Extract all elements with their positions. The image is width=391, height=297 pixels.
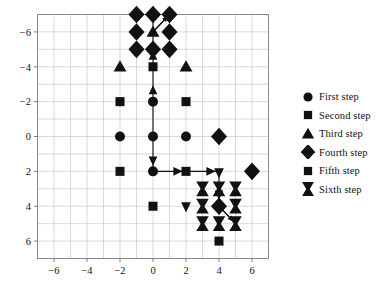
triangle-marker-icon [300,126,316,142]
data-point-circle [148,166,158,176]
path-arrowhead-down [181,202,191,212]
data-point-triangle [180,60,193,71]
path-arrowhead-right [173,167,182,176]
data-point-diamond [145,6,161,24]
path-arrowhead-down [214,168,224,178]
scatter-figure: −6−4−20246−6−4−20246 First stepSecond st… [0,0,391,297]
data-point-square [181,97,190,106]
data-point-diamond [211,128,227,146]
x-tick-label: −6 [48,265,59,276]
x-tick-label: 4 [216,265,222,276]
circle-marker-icon [300,89,316,105]
y-tick-label: −4 [20,62,32,73]
data-point-diamond [161,23,177,41]
data-point-diamond [161,41,177,59]
legend-item-second-step[interactable]: Second step [300,107,388,124]
data-point-square [148,62,157,71]
legend-label: Third step [316,128,363,139]
legend-item-third-step[interactable]: Third step [300,125,388,142]
data-point-triangle [114,60,127,71]
data-point-diamond [128,6,144,24]
chart-legend: First stepSecond stepThird stepFourth st… [300,88,388,199]
path-arrowhead-down [149,156,158,165]
diamond-marker-icon [300,144,316,160]
y-tick-label: 0 [26,131,31,142]
data-point-square [148,202,157,211]
data-point-circle [115,132,125,142]
legend-label: Second step [316,110,371,121]
data-point-circle [148,132,158,142]
legend-label: Sixth step [316,184,362,195]
x-tick-label: 2 [183,265,188,276]
x-tick-label: −4 [81,265,93,276]
data-point-circle [148,97,158,107]
path-arrowhead-right [206,167,215,176]
legend-item-fifth-step[interactable]: Fifth step [300,162,388,179]
legend-label: Fifth step [316,165,360,176]
x-tick-label: −2 [114,265,125,276]
legend-item-fourth-step[interactable]: Fourth step [300,144,388,161]
path-arrowhead-up [149,85,158,94]
data-point-diamond [128,23,144,41]
legend-label: First step [316,91,359,102]
data-point-square [214,237,223,246]
legend-label: Fourth step [316,147,368,158]
y-tick-label: 2 [26,166,31,177]
x-tick-label: 0 [150,265,155,276]
data-point-square [115,97,124,106]
x-tick-label: 6 [249,265,254,276]
bowtie-marker-icon [300,181,316,197]
legend-item-first-step[interactable]: First step [300,88,388,105]
data-point-diamond [244,163,260,181]
square-marker-icon [300,107,316,123]
y-tick-label: 6 [26,236,31,247]
data-point-square [181,167,190,176]
legend-item-sixth-step[interactable]: Sixth step [300,181,388,198]
data-point-diamond [128,41,144,59]
data-point-circle [181,132,191,142]
y-tick-label: −2 [20,96,31,107]
y-tick-label: 4 [26,201,32,212]
square-marker-icon [300,163,316,179]
y-tick-label: −6 [20,27,31,38]
data-point-square [115,167,124,176]
